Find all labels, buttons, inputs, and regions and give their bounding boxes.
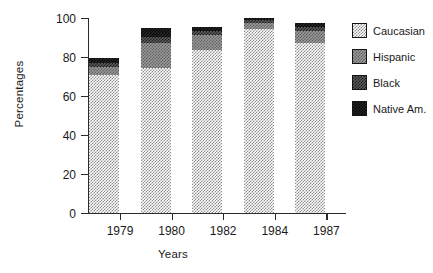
- legend-swatch-icon: [352, 49, 367, 64]
- bar-segment-caucasian-1979: [89, 75, 119, 213]
- y-tick-label: 40: [63, 129, 76, 143]
- y-tick-label: 100: [56, 12, 76, 26]
- y-tick: 60: [81, 96, 88, 97]
- x-tick: [120, 213, 121, 220]
- bar-segment-hispanic-1980: [141, 43, 171, 67]
- bar-segment-caucasian-1984: [244, 29, 274, 213]
- bar-segment-black-1980: [141, 37, 171, 44]
- x-tick: [223, 213, 224, 220]
- bar-segment-caucasian-1980: [141, 68, 171, 213]
- bar-1984: [244, 18, 274, 213]
- x-tick: [172, 213, 173, 220]
- legend-label: Hispanic: [373, 51, 415, 63]
- bar-segment-native-am-1980: [141, 28, 171, 37]
- legend-label: Native Am.: [373, 103, 426, 115]
- legend-swatch-icon: [352, 101, 367, 116]
- legend-label: Caucasian: [373, 25, 425, 37]
- bar-segment-caucasian-1987: [295, 43, 325, 213]
- bar-1980: [141, 28, 171, 213]
- bar-segment-caucasian-1982: [192, 50, 222, 213]
- bar-1982: [192, 27, 222, 213]
- bar-segment-hispanic-1987: [295, 31, 325, 44]
- y-tick-label: 0: [69, 207, 76, 221]
- x-axis-title: Years: [0, 248, 346, 260]
- x-axis-line: [88, 213, 346, 214]
- y-tick: 80: [81, 57, 88, 58]
- y-tick: 0: [81, 213, 88, 214]
- legend-item-caucasian: Caucasian: [352, 19, 433, 42]
- bar-1979: [89, 58, 119, 213]
- legend-swatch-icon: [352, 23, 367, 38]
- y-tick: 100: [81, 18, 88, 19]
- y-axis-title: Percentages: [13, 39, 25, 149]
- plot-area: 020406080100 19791980198219841987: [88, 18, 346, 213]
- y-tick-label: 80: [63, 51, 76, 65]
- bar-segment-hispanic-1982: [192, 35, 222, 51]
- x-tick-label-1987: 1987: [296, 224, 356, 238]
- x-tick: [326, 213, 327, 220]
- y-tick-label: 20: [63, 168, 76, 182]
- legend-item-black: Black: [352, 71, 433, 94]
- bar-1987: [295, 23, 325, 213]
- legend-item-hispanic: Hispanic: [352, 45, 433, 68]
- y-tick: 20: [81, 174, 88, 175]
- legend: CaucasianHispanicBlackNative Am.: [352, 19, 433, 123]
- y-tick: 40: [81, 135, 88, 136]
- x-tick: [275, 213, 276, 220]
- legend-swatch-icon: [352, 75, 367, 90]
- legend-item-native-am: Native Am.: [352, 97, 433, 120]
- y-tick-label: 60: [63, 90, 76, 104]
- stacked-bar-chart: Percentages Years 020406080100 197919801…: [0, 0, 433, 273]
- legend-label: Black: [373, 77, 400, 89]
- bar-segment-hispanic-1979: [89, 67, 119, 75]
